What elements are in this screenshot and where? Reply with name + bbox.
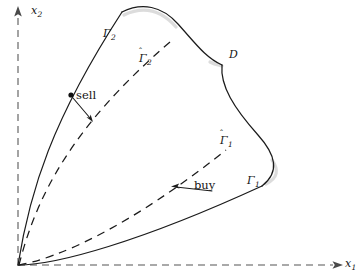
gamma1-hat-wrapper: ̂Γ bbox=[220, 135, 228, 146]
y-axis-label-sub: 2 bbox=[38, 10, 43, 19]
gamma2-hat-label: ̂Γ2 bbox=[139, 53, 151, 64]
region-label: D bbox=[229, 49, 238, 60]
solid-boundary-group bbox=[18, 7, 274, 265]
gamma1-label-base: Γ bbox=[247, 174, 255, 187]
figure-root: x2 x1 Γ2 ̂Γ2 D sell ̂Γ1 Γ1 buy bbox=[0, 0, 363, 279]
y-axis-label-base: x bbox=[31, 4, 37, 17]
gamma2-label: Γ2 bbox=[103, 28, 115, 39]
region-label-text: D bbox=[229, 48, 238, 61]
gamma2-hat-wrapper: ̂Γ bbox=[139, 53, 147, 64]
gamma1-label: Γ1 bbox=[247, 175, 259, 186]
gamma2-label-base: Γ bbox=[103, 27, 111, 40]
x-axis-label-base: x bbox=[345, 257, 351, 270]
gamma1-hat-sub: 1 bbox=[228, 140, 233, 149]
gamma2-hat-curve bbox=[19, 42, 170, 265]
buy-label-text: buy bbox=[194, 178, 215, 192]
gamma1-hat-curve bbox=[19, 150, 226, 265]
gamma1-hat-base: Γ bbox=[220, 134, 228, 147]
top-arc-curve bbox=[122, 7, 222, 65]
x-axis-label-sub: 1 bbox=[352, 263, 357, 272]
curve-shadow-group bbox=[124, 10, 276, 184]
axis-group bbox=[14, 6, 343, 269]
y-axis-arrowhead bbox=[14, 6, 22, 17]
gamma2-label-sub: 2 bbox=[111, 33, 116, 42]
sell-point-marker bbox=[68, 92, 73, 97]
sell-label: sell bbox=[76, 90, 96, 102]
diagram-canvas bbox=[0, 0, 363, 279]
x-axis-arrowhead bbox=[333, 261, 344, 269]
gamma2-hat-sub: 2 bbox=[147, 58, 152, 67]
sell-label-text: sell bbox=[76, 88, 96, 102]
cusp-right-curve bbox=[222, 65, 274, 186]
gamma1-label-sub: 1 bbox=[255, 180, 260, 189]
x-axis-label: x1 bbox=[345, 258, 356, 269]
dashed-boundary-group bbox=[19, 42, 226, 265]
gamma1-curve bbox=[18, 186, 262, 265]
gamma2-hat-base: Γ bbox=[139, 52, 147, 65]
gamma2-curve bbox=[18, 12, 122, 265]
top-arc-shadow bbox=[124, 10, 176, 27]
buy-label: buy bbox=[194, 180, 215, 192]
y-axis-label: x2 bbox=[31, 5, 42, 16]
gamma1-hat-label: ̂Γ1 bbox=[220, 135, 232, 146]
